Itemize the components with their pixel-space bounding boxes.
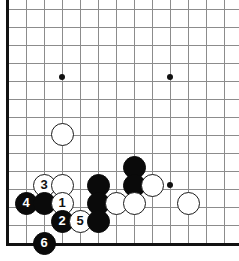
black-stone-bottom-center[interactable] (87, 210, 110, 233)
white-stone-mid-right-b[interactable] (123, 192, 146, 215)
move-number-label: 3 (40, 178, 47, 191)
star-point-left (59, 74, 65, 80)
grid-line-horizontal (7, 99, 239, 100)
move-number-label: 6 (40, 236, 47, 249)
white-stone-upper-left-area[interactable] (51, 123, 74, 146)
move-number-label: 2 (58, 214, 65, 227)
grid-line-horizontal (7, 45, 239, 46)
board-edge-left (6, 0, 9, 246)
grid-line-horizontal (7, 153, 239, 154)
grid-line-horizontal (7, 135, 239, 136)
grid-line-horizontal (7, 225, 239, 226)
move-number-label: 1 (58, 196, 65, 209)
move-number-label: 4 (22, 196, 29, 209)
grid-line-horizontal (7, 27, 239, 28)
grid-line-horizontal (7, 81, 239, 82)
black-stone-move-6[interactable]: 6 (33, 232, 56, 255)
star-point-right (167, 74, 173, 80)
go-board: 341256 (0, 0, 239, 261)
grid-line-horizontal (7, 9, 239, 10)
white-stone-right-of-black[interactable] (141, 174, 164, 197)
grid-line-horizontal (7, 63, 239, 64)
move-number-label: 5 (76, 214, 83, 227)
star-point-lower-right (167, 182, 173, 188)
white-stone-far-right[interactable] (177, 192, 200, 215)
grid-line-horizontal (7, 117, 239, 118)
